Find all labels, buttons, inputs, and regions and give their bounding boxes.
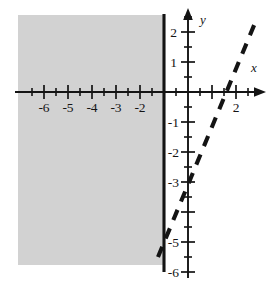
graph-figure: x y -6 -5 -4 -3 -2 2 2 1 -1 -2 -3 -5 -6 (0, 0, 278, 285)
shaded-solution-region (18, 15, 164, 265)
y-axis-arrow-icon (183, 8, 193, 20)
x-tick-label-pos2: 2 (233, 100, 240, 115)
y-tick-label-neg2: -2 (168, 145, 179, 160)
y-tick-label-neg1: -1 (168, 115, 179, 130)
y-axis (183, 8, 193, 278)
x-tick-label-neg5: -5 (62, 100, 73, 115)
y-axis-name-label: y (198, 12, 206, 27)
coordinate-plane-plot: x y -6 -5 -4 -3 -2 2 2 1 -1 -2 -3 -5 -6 (0, 0, 278, 285)
x-tick-label-neg4: -4 (86, 100, 97, 115)
y-tick-label-pos2: 2 (170, 25, 177, 40)
y-tick-label-neg6: -6 (168, 265, 179, 280)
y-tick-label-pos1: 1 (170, 55, 177, 70)
x-tick-label-neg3: -3 (110, 100, 121, 115)
x-axis-name-label: x (250, 60, 257, 75)
x-axis-arrow-icon (254, 87, 266, 97)
y-tick-label-neg3: -3 (168, 175, 179, 190)
x-tick-label-neg2: -2 (134, 100, 145, 115)
x-tick-label-neg6: -6 (38, 100, 49, 115)
y-tick-label-neg5: -5 (168, 235, 179, 250)
